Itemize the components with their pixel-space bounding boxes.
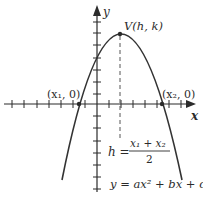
h-formula-numerator: x₁ + x₂ [130, 137, 166, 149]
y-axis-label: y [102, 5, 110, 19]
x-axis-arrow-icon [186, 100, 196, 108]
diagram-canvas: y x V(h, k) (x₁, 0) (x₂, 0) h = x₁ + x₂ … [0, 0, 203, 199]
vertex-label: V(h, k) [124, 19, 163, 33]
h-formula-denominator: 2 [146, 153, 153, 165]
root-left-label: (x₁, 0) [47, 88, 80, 101]
root-left-point [77, 102, 81, 106]
y-axis [93, 14, 101, 192]
vertex-point [118, 32, 122, 36]
parabola-diagram: y x V(h, k) (x₁, 0) (x₂, 0) h = x₁ + x₂ … [0, 0, 203, 199]
root-right-point [160, 102, 164, 106]
root-right-label: (x₂, 0) [162, 88, 195, 101]
h-formula-lhs: h = [108, 145, 130, 159]
x-axis-label: x [190, 109, 199, 123]
equation-label: y = ax² + bx + c [109, 177, 203, 191]
y-axis-arrow-icon [93, 5, 101, 16]
